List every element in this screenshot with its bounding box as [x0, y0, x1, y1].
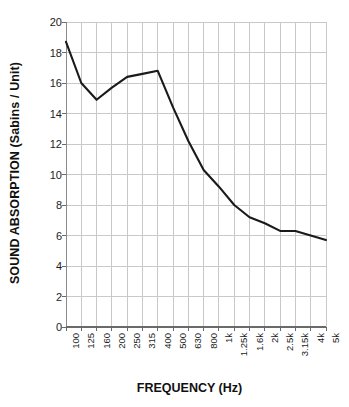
x-axis-tick-label: 630: [192, 333, 203, 349]
x-axis-tick-label: 5k: [330, 333, 341, 343]
x-axis-tick-labels: 1001251602002503154005006308001k1.25k1.6…: [0, 330, 349, 380]
data-series-line: [66, 42, 326, 240]
x-axis-tick-label: 500: [177, 333, 188, 349]
x-axis-tick-label: 250: [131, 333, 142, 349]
chart-container: SOUND ABSORPTION (Sabins / Unit) 0246810…: [0, 0, 349, 407]
x-axis-title: FREQUENCY (Hz): [30, 381, 349, 395]
x-axis-tick-label: 2k: [269, 333, 280, 343]
x-axis-tick-label: 2.5k: [284, 333, 295, 351]
x-axis-tick-label: 3.15k: [299, 333, 310, 356]
x-axis-tick-label: 800: [208, 333, 219, 349]
x-axis-tick-label: 1k: [223, 333, 234, 343]
x-axis-tick-label: 1.25k: [238, 333, 249, 356]
x-axis-tick-label: 125: [85, 333, 96, 349]
x-axis-tick-label: 400: [162, 333, 173, 349]
x-axis-tick-label: 4k: [315, 333, 326, 343]
x-axis-tick-label: 200: [116, 333, 127, 349]
x-axis-tick-label: 100: [70, 333, 81, 349]
x-axis-tick-label: 315: [146, 333, 157, 349]
grid-lines: [66, 22, 326, 327]
x-axis-tick-label: 160: [101, 333, 112, 349]
x-axis-tick-label: 1.6k: [254, 333, 265, 351]
axis-tick-marks: [62, 22, 326, 331]
